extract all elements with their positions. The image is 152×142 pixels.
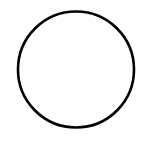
circle-shape bbox=[18, 12, 134, 128]
diagram-svg bbox=[0, 0, 152, 142]
diagram-canvas bbox=[0, 0, 152, 142]
